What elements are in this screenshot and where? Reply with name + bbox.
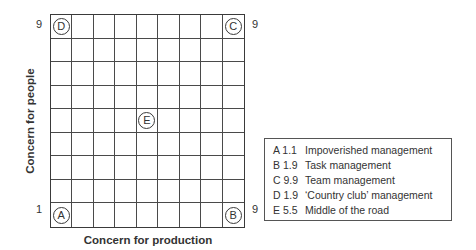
grid-cell	[158, 109, 179, 133]
grid-cell	[201, 109, 222, 133]
grid-cell	[180, 133, 201, 157]
grid-cell	[201, 156, 222, 180]
grid-cell	[223, 180, 244, 204]
legend-item-c: C 9.9Team management	[273, 173, 451, 188]
grid-cell	[137, 133, 158, 157]
grid-cell	[223, 133, 244, 157]
grid-cell	[51, 133, 72, 157]
grid-cell	[201, 86, 222, 110]
legend-box: A 1.1Impoverished management B 1.9Task m…	[264, 138, 452, 221]
grid-cell	[201, 39, 222, 63]
grid-cell	[201, 203, 222, 227]
x-axis-max-label-top: 9	[252, 18, 258, 30]
legend-label: Impoverished management	[305, 144, 432, 156]
legend-code: C 9.9	[273, 173, 305, 188]
grid-cell	[223, 156, 244, 180]
grid-cell	[115, 86, 136, 110]
grid-cell	[94, 109, 115, 133]
grid-cell	[51, 39, 72, 63]
grid-cell	[115, 203, 136, 227]
grid-cell	[158, 203, 179, 227]
grid-cell: E	[137, 109, 158, 133]
grid-cell	[72, 156, 93, 180]
legend-item-b: B 1.9Task management	[273, 158, 451, 173]
legend-label: Middle of the road	[305, 204, 389, 216]
legend-label: Task management	[305, 159, 391, 171]
grid-cell	[94, 39, 115, 63]
grid-cell: A	[51, 203, 72, 227]
grid-cell	[94, 156, 115, 180]
marker-b: B	[225, 207, 242, 224]
grid-cell	[94, 62, 115, 86]
grid-cell	[158, 62, 179, 86]
legend-code: A 1.1	[273, 143, 305, 158]
grid-cell	[223, 39, 244, 63]
grid-cell	[158, 133, 179, 157]
grid-cell	[115, 133, 136, 157]
legend-label: ‘Country club’ management	[305, 189, 432, 201]
grid-cell	[180, 62, 201, 86]
grid-cell	[158, 86, 179, 110]
grid-cell	[51, 109, 72, 133]
grid-cell	[180, 203, 201, 227]
grid-cell	[51, 86, 72, 110]
grid-cell	[94, 86, 115, 110]
grid-cell	[180, 15, 201, 39]
grid-cell	[201, 133, 222, 157]
marker-e: E	[138, 112, 155, 129]
legend-code: B 1.9	[273, 158, 305, 173]
grid-cell	[201, 15, 222, 39]
grid-cell	[72, 15, 93, 39]
grid-cell	[72, 109, 93, 133]
grid-cell	[72, 86, 93, 110]
grid-cell	[94, 180, 115, 204]
marker-d: D	[53, 18, 70, 35]
grid-cell	[51, 156, 72, 180]
managerial-grid: DCEAB	[50, 14, 245, 228]
grid-cell	[137, 39, 158, 63]
marker-a: A	[53, 207, 70, 224]
y-axis-min-label: 1	[36, 203, 42, 215]
grid-cell	[158, 180, 179, 204]
y-axis-title: Concern for people	[24, 68, 36, 173]
legend-item-a: A 1.1Impoverished management	[273, 143, 451, 158]
grid-cell	[94, 203, 115, 227]
grid-cell	[115, 156, 136, 180]
legend-item-d: D 1.9‘Country club’ management	[273, 188, 451, 203]
grid-cell	[115, 15, 136, 39]
grid-cell: D	[51, 15, 72, 39]
grid-cell	[72, 62, 93, 86]
grid-cell	[137, 156, 158, 180]
grid-cell	[137, 203, 158, 227]
grid-cell	[115, 62, 136, 86]
grid-cell	[115, 109, 136, 133]
grid-cell	[137, 15, 158, 39]
legend-code: D 1.9	[273, 188, 305, 203]
grid-cell	[137, 86, 158, 110]
x-axis-title: Concern for production	[84, 234, 212, 246]
marker-c: C	[225, 18, 242, 35]
grid-cell	[201, 62, 222, 86]
grid-cell	[180, 156, 201, 180]
grid-cell	[94, 133, 115, 157]
grid-cell	[180, 109, 201, 133]
grid-cell	[94, 15, 115, 39]
grid-cell: B	[223, 203, 244, 227]
grid-cell	[51, 180, 72, 204]
x-axis-max-label-bottom: 9	[252, 203, 258, 215]
grid-cell	[51, 62, 72, 86]
grid-cell	[223, 86, 244, 110]
grid-cell	[158, 156, 179, 180]
grid-cell	[72, 203, 93, 227]
grid-cell	[72, 180, 93, 204]
legend-label: Team management	[305, 174, 395, 186]
grid-cell	[115, 39, 136, 63]
grid-cell	[223, 62, 244, 86]
grid-cell	[180, 180, 201, 204]
grid-cell	[137, 180, 158, 204]
grid-cell	[137, 62, 158, 86]
grid-cell	[72, 133, 93, 157]
grid-cell	[180, 86, 201, 110]
legend-item-e: E 5.5Middle of the road	[273, 203, 451, 218]
grid-cell	[115, 180, 136, 204]
